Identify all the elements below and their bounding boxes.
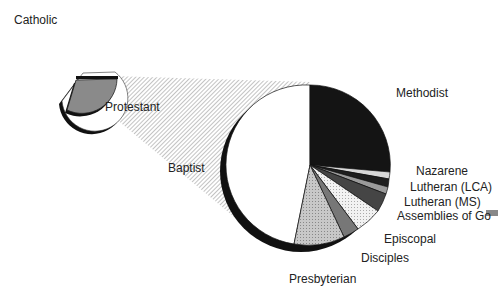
label-catholic: Catholic <box>14 13 57 27</box>
label-episcopal: Episcopal <box>384 232 436 246</box>
label-methodist: Methodist <box>396 86 448 100</box>
label-lutheran-ms: Lutheran (MS) <box>404 195 481 209</box>
pie-of-pie-chart <box>0 0 498 295</box>
label-presbyterian: Presbyterian <box>289 272 356 286</box>
label-assemblies-of-god: Assemblies of Go <box>397 209 491 223</box>
label-disciples: Disciples <box>361 251 409 265</box>
detail-pie <box>226 85 390 245</box>
slice-methodist <box>310 85 390 172</box>
label-baptist: Baptist <box>168 161 205 175</box>
label-protestant: Protestant <box>105 100 160 114</box>
label-nazarene: Nazarene <box>416 164 468 178</box>
label-lutheran-lca: Lutheran (LCA) <box>410 180 492 194</box>
